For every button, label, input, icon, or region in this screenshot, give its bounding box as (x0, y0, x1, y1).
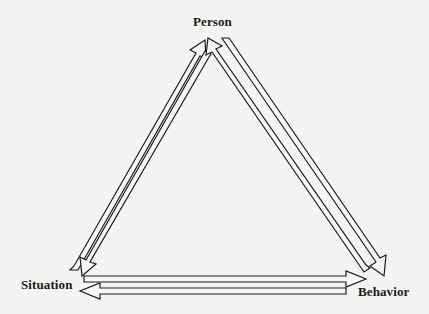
arrow-situation-to-behavior (84, 271, 366, 287)
arrow-situation-to-person (70, 40, 206, 270)
node-person-label: Person (193, 14, 232, 30)
arrow-behavior-to-person (206, 38, 370, 272)
reciprocal-triad-diagram: Person Situation Behavior (0, 0, 429, 314)
node-situation-label: Situation (21, 277, 72, 293)
arrow-person-to-behavior (222, 38, 386, 276)
arrow-person-to-situation (80, 51, 211, 276)
node-behavior-label: Behavior (358, 284, 409, 300)
arrows-layer (0, 0, 429, 314)
arrow-behavior-to-situation (80, 283, 346, 299)
